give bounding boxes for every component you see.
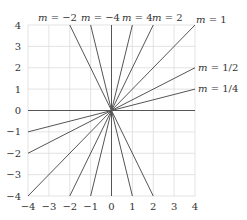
- x-tick-label: 2: [150, 201, 156, 212]
- label-m-4: m = 4: [122, 12, 153, 23]
- y-tick-label: −3: [6, 169, 21, 180]
- y-tick-label: −1: [6, 126, 21, 137]
- x-tick-label: 1: [129, 201, 135, 212]
- slope-chart: −4−3−2−101234 43210−1−2−3−4 m = −2 m = −…: [0, 0, 247, 220]
- y-tick-label: 2: [15, 62, 21, 73]
- y-tick-label: 3: [15, 41, 21, 52]
- x-tick-label: −4: [21, 201, 36, 212]
- label-m-neg2: m = −2: [38, 12, 77, 23]
- label-m-quarter: m = 1/4: [198, 83, 238, 94]
- x-tick-label: −1: [83, 201, 98, 212]
- y-tick-label: 0: [15, 105, 21, 116]
- x-tick-label: 0: [108, 201, 114, 212]
- x-tick-label: −3: [42, 201, 57, 212]
- label-m-half: m = 1/2: [198, 62, 238, 73]
- y-tick-label: −4: [6, 191, 21, 202]
- y-tick-label: 1: [15, 84, 21, 95]
- y-tick-label: −2: [6, 148, 21, 159]
- x-tick-label: 3: [171, 201, 177, 212]
- y-tick-label: 4: [15, 20, 21, 31]
- x-tick-label: 4: [192, 201, 198, 212]
- y-tick-labels: 43210−1−2−3−4: [6, 20, 21, 202]
- x-tick-labels: −4−3−2−101234: [21, 201, 199, 212]
- x-tick-label: −2: [62, 201, 77, 212]
- label-m-neg4: m = −4: [81, 12, 120, 23]
- label-m-1: m = 1: [196, 14, 227, 25]
- label-m-2: m = 2: [152, 12, 183, 23]
